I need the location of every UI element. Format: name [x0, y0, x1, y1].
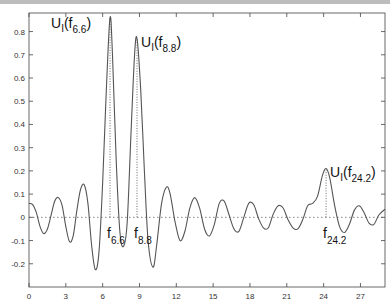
annotation-label: f8.8 — [134, 225, 152, 246]
line-chart: 0369121518212427 -0.2-0.100.10.20.30.40.… — [0, 0, 390, 305]
y-tick-label: -0.2 — [11, 260, 25, 269]
annotations: UI(f6.6)UI(f8.8)UI(f24.2)f6.6f8.8f24.2 — [51, 15, 376, 247]
y-tick-label: 0.2 — [14, 167, 26, 176]
x-tick-label: 27 — [356, 292, 365, 301]
annotation-label: f24.2 — [323, 225, 347, 246]
x-tick-label: 21 — [282, 292, 291, 301]
annotation-label: f6.6 — [107, 225, 125, 246]
x-tick-label: 24 — [319, 292, 328, 301]
annotation-label: UI(f8.8) — [141, 34, 181, 54]
x-tick-label: 6 — [100, 292, 105, 301]
x-tick-label: 9 — [137, 292, 142, 301]
annotation-label: UI(f24.2) — [330, 164, 376, 184]
data-series-line — [29, 17, 385, 270]
y-tick-label: 0.6 — [14, 74, 26, 83]
y-tick-label: 0.8 — [14, 28, 26, 37]
x-tick-label: 18 — [246, 292, 255, 301]
y-tick-label: 0.7 — [14, 51, 26, 60]
x-tick-label: 15 — [209, 292, 218, 301]
annotation-label: UI(f6.6) — [51, 15, 91, 35]
x-axis-ticks: 0369121518212427 — [27, 13, 366, 301]
y-tick-label: 0.1 — [14, 190, 26, 199]
y-tick-label: 0.4 — [14, 120, 26, 129]
x-tick-label: 0 — [27, 292, 32, 301]
y-tick-label: 0.3 — [14, 144, 26, 153]
x-tick-label: 3 — [64, 292, 69, 301]
y-tick-label: -0.1 — [11, 237, 25, 246]
y-tick-label: 0.5 — [14, 97, 26, 106]
x-tick-label: 12 — [172, 292, 181, 301]
y-tick-label: 0 — [21, 213, 26, 222]
